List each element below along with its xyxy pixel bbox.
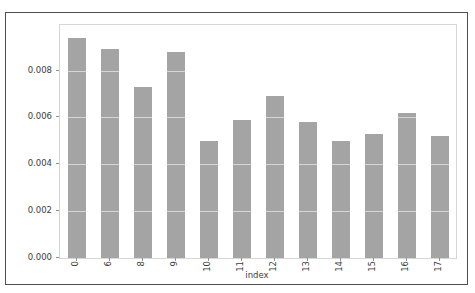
y-tick-mark	[56, 70, 59, 71]
y-tick-mark	[56, 163, 59, 164]
y-tick-mark	[56, 116, 59, 117]
x-tick-label: 6	[104, 261, 113, 266]
x-tick-label: 8	[137, 261, 146, 266]
gridline	[60, 117, 456, 118]
bar	[101, 49, 119, 258]
y-tick-label: 0.002	[12, 205, 52, 215]
bar	[200, 141, 218, 258]
bar	[332, 141, 350, 258]
y-tick-mark	[56, 257, 59, 258]
bar-chart-figure: 0.0000.0020.0040.0060.008 06891011121314…	[0, 0, 475, 293]
x-tick-label: 0	[71, 261, 80, 266]
bar	[266, 96, 284, 258]
bar	[299, 122, 317, 258]
y-tick-label: 0.006	[12, 111, 52, 121]
gridline	[60, 164, 456, 165]
y-tick-label: 0.008	[12, 65, 52, 75]
y-tick-mark	[56, 210, 59, 211]
bar	[167, 52, 185, 258]
x-tick-label: 9	[170, 261, 179, 266]
bar	[233, 120, 251, 258]
gridline	[60, 211, 456, 212]
y-tick-label: 0.000	[12, 252, 52, 262]
plot-area	[59, 24, 457, 259]
bar	[365, 134, 383, 258]
gridline	[60, 71, 456, 72]
x-axis-title: index	[59, 270, 455, 280]
bar	[134, 87, 152, 258]
bar	[398, 113, 416, 258]
bar	[431, 136, 449, 258]
y-tick-label: 0.004	[12, 158, 52, 168]
